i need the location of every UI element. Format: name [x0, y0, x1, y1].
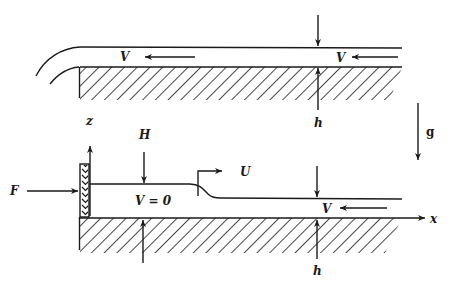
front-speed-label: U: [240, 165, 252, 179]
gravity-indicator: g: [418, 103, 435, 160]
front-speed-arrow-icon: [198, 171, 222, 196]
top-outflow-lower-curve: [50, 67, 79, 84]
top-panel: V V h: [36, 15, 402, 130]
force-label: F: [9, 184, 20, 198]
gravity-label: g: [426, 125, 435, 139]
z-axis-label: z: [85, 114, 94, 128]
bottom-panel: x z F H V = 0 U V h: [9, 114, 438, 278]
flow-diagram: V V h g x z F H: [0, 0, 451, 287]
still-depth-label: H: [138, 128, 151, 142]
top-free-surface: [80, 47, 402, 48]
bottom-depth-label: h: [313, 264, 322, 278]
still-velocity-label: V = 0: [135, 194, 172, 208]
bottom-velocity-label: V: [322, 202, 333, 216]
top-outflow-upper-curve: [36, 47, 80, 76]
bottom-bed-hatching: [80, 218, 402, 254]
top-bed-hatching: [80, 67, 402, 101]
x-axis-label: x: [429, 212, 438, 226]
top-velocity-label-left: V: [120, 50, 131, 64]
top-velocity-label-right: V: [336, 51, 347, 65]
top-depth-label: h: [314, 116, 323, 130]
pushing-plate-pattern: [81, 165, 88, 216]
